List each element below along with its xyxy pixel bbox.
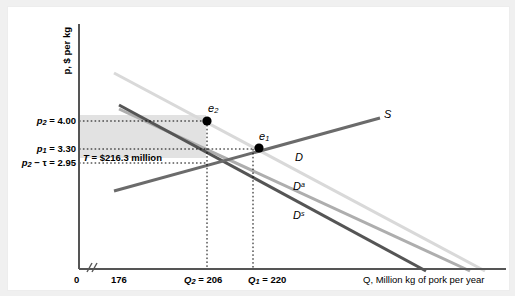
y-tick-p2tau-value: − τ = 2.95 (32, 157, 76, 168)
x-axis-title: Q, Million kg of pork per year (363, 275, 484, 285)
x-tick-Q2: Q2 = 206 (184, 275, 222, 286)
figure-container: p, $ per kg p2 = 4.00 p1 = 3.30 p2 − τ =… (7, 6, 510, 291)
x-tick-176: 176 (111, 275, 127, 285)
x-tick-q2-value: = 206 (196, 274, 223, 285)
x-tick-zero: 0 (74, 275, 79, 285)
equilibrium-label-e2: e2 (208, 103, 218, 115)
y-tick-p1: p1 = 3.30 (8, 144, 76, 155)
y-tick-p2-minus-tau: p2 − τ = 2.95 (8, 158, 76, 169)
tax-revenue-value: = $216.3 million (89, 152, 162, 163)
x-tick-Q1: Q1 = 220 (248, 275, 286, 286)
equilibrium-label-e1: e1 (259, 131, 269, 143)
curve-label-Ds: Ds (293, 210, 304, 221)
eq-e1-sub: 1 (265, 134, 269, 143)
curve-label-ds-base: D (293, 209, 301, 221)
supply-demand-chart (8, 7, 509, 290)
y-axis-title: p, $ per kg (62, 27, 72, 75)
curve-label-S: S (384, 109, 391, 120)
curve-label-ds-sup: s (301, 210, 305, 217)
equilibrium-point-e1 (254, 143, 263, 152)
demand-curve-Ds (119, 105, 426, 271)
equilibrium-point-e2 (202, 116, 211, 125)
curve-label-da-sup: a (301, 181, 305, 188)
y-tick-p1-value: = 3.30 (47, 143, 76, 154)
x-tick-176-text: 176 (111, 274, 127, 285)
axis-break-icon (86, 263, 99, 272)
curve-label-D: D (295, 152, 303, 163)
demand-curve-D (114, 73, 485, 271)
y-tick-p2: p2 = 4.00 (8, 116, 76, 127)
tax-revenue-label: T = $216.3 million (83, 153, 162, 163)
curve-label-Da: Da (293, 181, 305, 192)
y-tick-p2-value: = 4.00 (47, 115, 76, 126)
eq-e2-sub: 2 (214, 106, 218, 115)
x-tick-q1-value: = 220 (260, 274, 287, 285)
curve-label-da-base: D (293, 180, 301, 192)
x-tick-zero-text: 0 (74, 274, 79, 285)
